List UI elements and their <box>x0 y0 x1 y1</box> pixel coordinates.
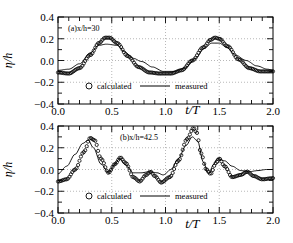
y-tick-labels: 0.40.20.0−0.2−0.4 <box>34 11 54 110</box>
panel-a: 0.40.20.0−0.2−0.4 0.00.51.01.52.0 (a)x/h… <box>1 11 280 117</box>
panel-label: (a)x/h=30 <box>68 24 100 33</box>
x-tick-labels: 0.00.51.01.52.0 <box>51 105 280 117</box>
x-axis-label: t/T <box>185 216 200 231</box>
y-tick-label: −0.2 <box>34 185 54 197</box>
x-tick-label: 0.5 <box>105 105 119 117</box>
y-tick-label: 0.0 <box>40 164 54 176</box>
x-tick-label: 2.0 <box>266 214 280 226</box>
y-axis-label: η/h <box>1 53 15 68</box>
legend-measured-label: measured <box>175 191 208 201</box>
y-tick-label: −0.2 <box>34 76 54 88</box>
legend: calculated measured <box>86 81 208 91</box>
measured-line <box>58 137 273 175</box>
x-tick-label: 0.5 <box>105 214 119 226</box>
x-tick-label: 0.0 <box>51 105 65 117</box>
legend-circle-icon <box>86 83 92 89</box>
y-axis-label: η/h <box>1 162 15 177</box>
y-tick-label: 0.4 <box>40 11 54 23</box>
x-tick-label: 1.5 <box>212 214 226 226</box>
legend-circle-icon <box>86 193 92 199</box>
figure: 0.40.20.0−0.2−0.4 0.00.51.01.52.0 (a)x/h… <box>0 0 293 243</box>
legend: calculated measured <box>86 191 208 201</box>
x-tick-label: 1.0 <box>159 105 173 117</box>
y-tick-label: 0.2 <box>40 33 54 45</box>
legend-calculated-label: calculated <box>97 191 132 201</box>
x-axis-label: t/T <box>185 102 200 117</box>
y-tick-label: 0.0 <box>40 55 54 67</box>
x-tick-label: 2.0 <box>266 105 280 117</box>
panel-label: (b)x/h=42.5 <box>120 133 158 142</box>
legend-calculated-label: calculated <box>97 81 132 91</box>
x-tick-label: 0.0 <box>51 214 65 226</box>
panel-b: 0.40.20.0−0.2−0.4 0.00.51.01.52.0 (b)x/h… <box>1 120 280 231</box>
y-tick-labels: 0.40.20.0−0.2−0.4 <box>34 120 54 219</box>
x-tick-label: 1.5 <box>212 105 226 117</box>
x-tick-label: 1.0 <box>159 214 173 226</box>
x-tick-labels: 0.00.51.01.52.0 <box>51 214 280 226</box>
y-tick-label: 0.4 <box>40 120 54 132</box>
y-tick-label: 0.2 <box>40 142 54 154</box>
legend-measured-label: measured <box>175 81 208 91</box>
